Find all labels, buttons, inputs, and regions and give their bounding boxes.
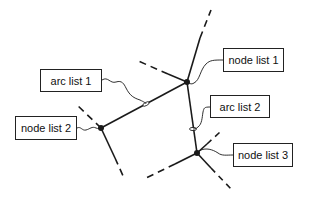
leader-node-list-2: [77, 127, 101, 130]
arc-list-1-label: arc list 1: [40, 69, 102, 92]
node-c-edge-down-right-dashed: [211, 168, 232, 190]
node-a-edge-up-dashed: [200, 10, 211, 38]
node-c-edge-left: [175, 153, 197, 164]
node-a-edge-left-dashed: [136, 60, 168, 74]
arc-list-2-label: arc list 2: [210, 95, 270, 118]
node-b-edge-down: [101, 128, 115, 158]
node-c-edge-left-dashed: [146, 164, 175, 178]
node-list-2-text: node list 2: [21, 122, 71, 134]
arc-list-1-text: arc list 1: [51, 75, 92, 87]
node-b-edge-up-dashed: [76, 104, 101, 128]
node-a-edge-left: [168, 74, 187, 82]
node-list-2-label: node list 2: [15, 116, 77, 140]
node-b-edge-down-dashed: [115, 158, 124, 178]
node-list-3-text: node list 3: [238, 149, 288, 161]
graph-diagram: arc list 1 node list 2 node list 1 arc l…: [0, 0, 309, 200]
node-c-edge-right-up-dashed: [207, 132, 220, 144]
leader-node-list-3: [197, 149, 233, 155]
node-list-3-label: node list 3: [233, 143, 293, 167]
leader-arc-list-1: [102, 79, 146, 104]
leader-arc-list-2: [193, 107, 210, 129]
node-list-1-text: node list 1: [228, 54, 278, 66]
node-c-edge-down-right: [197, 153, 211, 168]
arc-2-edge: [187, 82, 197, 153]
arc-list-2-text: arc list 2: [220, 101, 261, 113]
node-a-edge-up: [187, 38, 200, 82]
node-list-1-label: node list 1: [223, 48, 284, 72]
